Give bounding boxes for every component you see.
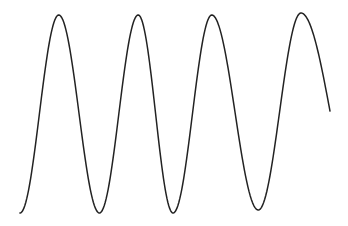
line-chart (0, 0, 348, 226)
series-line-wave (20, 13, 330, 213)
series-layer (20, 13, 330, 213)
